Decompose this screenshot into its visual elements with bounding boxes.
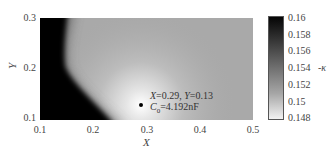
x-tick-0.5: 0.5: [247, 125, 260, 135]
y-tick-0.2: 0.2: [24, 63, 37, 73]
x-tick-0.2: 0.2: [87, 125, 100, 135]
x-axis-label: X: [143, 136, 150, 148]
x-tick-0.4: 0.4: [194, 125, 207, 135]
x-tick-0.1: 0.1: [34, 125, 47, 135]
y-tick-0.3: 0.3: [24, 13, 37, 23]
optimum-marker: [139, 103, 143, 107]
y-axis-label: Y: [6, 63, 18, 69]
y-tick-0.1: 0.1: [24, 113, 37, 123]
optimum-annotation: X=0.29, Y=0.13 C0=4.192nF: [150, 90, 213, 117]
heatmap-plot: [40, 18, 253, 120]
colorbar-tick: 0.148: [288, 113, 311, 123]
x-tick-0.3: 0.3: [141, 125, 154, 135]
colorbar-tick: 0.156: [288, 46, 311, 56]
colorbar-tick: 0.152: [288, 80, 311, 90]
colorbar-tick: 0.15: [288, 97, 306, 107]
annotation-line-xy: X=0.29, Y=0.13: [150, 90, 213, 101]
colorbar-tick: 0.154: [288, 63, 311, 73]
annotation-line-c0: C0=4.192nF: [150, 101, 213, 117]
colorbar-label: -κ: [318, 62, 326, 73]
heatmap-surface: [40, 18, 253, 120]
colorbar: [268, 16, 284, 120]
colorbar-tick: 0.158: [288, 30, 311, 40]
colorbar-tick: 0.16: [288, 13, 306, 23]
